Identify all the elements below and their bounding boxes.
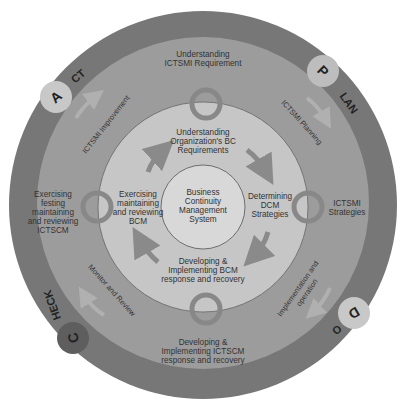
middle-bottom-label: Developing & Implementing ICTSCM respons… [148, 338, 258, 365]
middle-right-label: ICTSMI Strategies [322, 199, 372, 217]
inner-bottom-label: Developing & Implementing BCM response a… [148, 257, 258, 284]
middle-left-label: Exercising festing maintaining and revie… [25, 190, 81, 235]
inner-right-label: Determining DCM Strategies [240, 192, 300, 219]
center-label: Business Continuity Management System [163, 188, 243, 224]
inner-left-label: Exercising maintaining and reviewing BCM [110, 190, 166, 226]
middle-top-label: Understanding ICTSMI Requirement [148, 50, 258, 68]
inner-top-label: Understanding Organization's BC Requirem… [148, 128, 258, 155]
